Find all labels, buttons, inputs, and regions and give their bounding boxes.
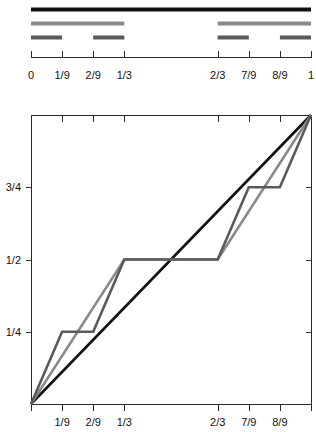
plot-y-tick-label-0: 1/4 xyxy=(6,326,21,338)
plot-x-tick-label-4: 2/3 xyxy=(210,416,225,428)
cantor-axis-tick-label-7: 1 xyxy=(308,69,314,81)
plot-x-tick-label-6: 8/9 xyxy=(272,416,287,428)
plot-y-tick-label-2: 3/4 xyxy=(6,181,21,193)
plot-x-tick-label-3: 1/3 xyxy=(117,416,132,428)
plot-y-tick-label-1: 1/2 xyxy=(6,254,21,266)
cantor-x-axis: 01/92/91/32/37/98/91 xyxy=(28,51,314,82)
cantor-axis-tick-label-2: 2/9 xyxy=(86,69,101,81)
plot-x-ticks: 1/92/91/32/37/98/9 xyxy=(32,116,312,429)
cantor-axis-tick-label-0: 0 xyxy=(28,69,34,81)
figure-canvas: 01/92/91/32/37/98/911/92/91/32/37/98/91/… xyxy=(0,0,316,432)
plot-x-tick-label-1: 1/9 xyxy=(54,416,69,428)
cantor-axis-tick-label-5: 7/9 xyxy=(241,69,256,81)
cantor-axis-tick-label-3: 1/3 xyxy=(117,69,132,81)
cantor-axis-tick-label-6: 8/9 xyxy=(272,69,287,81)
cantor-axis-tick-label-4: 2/3 xyxy=(210,69,225,81)
cantor-axis-tick-label-1: 1/9 xyxy=(54,69,69,81)
plot-x-tick-label-2: 2/9 xyxy=(86,416,101,428)
plot-x-tick-label-5: 7/9 xyxy=(241,416,256,428)
plot-curves xyxy=(31,115,311,404)
cantor-figure: 01/92/91/32/37/98/911/92/91/32/37/98/91/… xyxy=(0,0,316,432)
